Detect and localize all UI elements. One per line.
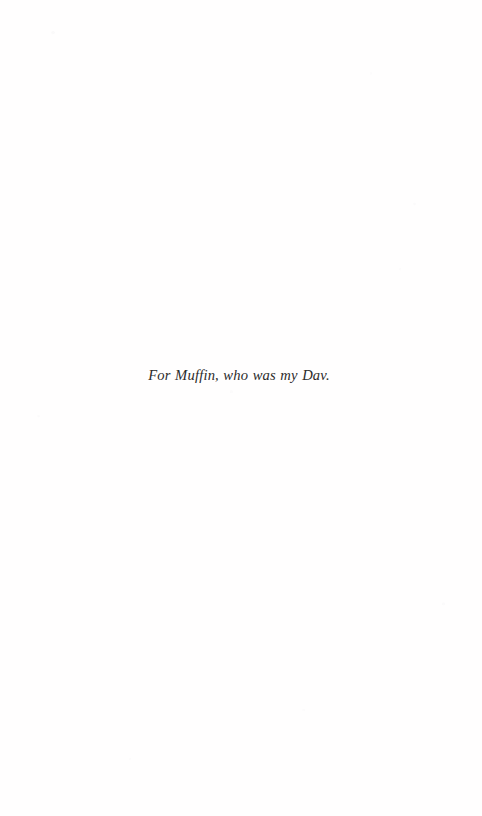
scanned-book-page: For Muffin, who was my Dav. xyxy=(0,0,482,816)
dedication-block: For Muffin, who was my Dav. xyxy=(0,366,482,385)
dedication-text: For Muffin, who was my Dav. xyxy=(148,366,330,385)
paper-grain-texture xyxy=(0,0,482,816)
